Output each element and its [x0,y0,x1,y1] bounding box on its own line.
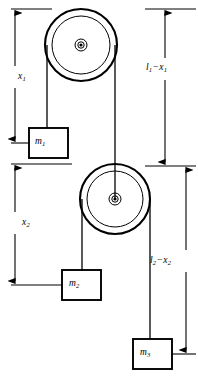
dimension-label-x2: x2 [22,218,30,228]
mass-3-box [133,339,172,369]
extension-lines [11,9,196,354]
dimension-label-l1-minus-x1: l1−x1 [146,63,167,73]
dimension-label-l2-minus-x2: l2−x2 [150,256,171,266]
diagram-svg [0,0,198,378]
mass-2-label: m2 [69,279,79,289]
mass-1-label: m1 [35,137,45,147]
mass-2-box [62,270,101,300]
lower-pulley-axle-dot [113,197,116,200]
upper-pulley [45,9,117,81]
mass-3-label: m3 [140,348,150,358]
upper-pulley-axle-dot [79,43,82,46]
figure-canvas: x1 l1−x1 x2 l2−x2 m1 m2 m3 [0,0,198,378]
dimension-label-x1: x1 [18,72,26,82]
